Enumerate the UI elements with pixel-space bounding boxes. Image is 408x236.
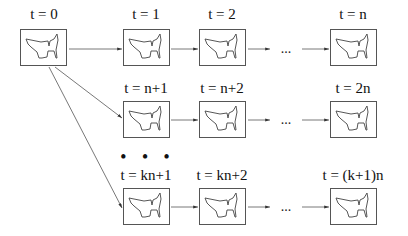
frame-label-tk1n: t = (k+1)n <box>322 167 383 183</box>
frame-sequence-diagram: t = 0 t = 1 t = 2 ... t = n t = n+1 t = … <box>0 0 408 236</box>
cat-silhouette-icon <box>124 30 171 67</box>
frame-tkn2 <box>199 188 246 225</box>
cat-silhouette-icon <box>331 189 378 226</box>
frame-label-tkn2: t = kn+2 <box>196 167 247 183</box>
frame-label-tn: t = n <box>339 6 367 22</box>
row2-ellipsis: ... <box>281 113 292 127</box>
frame-tn <box>330 29 377 66</box>
frame-label-t2n: t = 2n <box>335 80 370 96</box>
frame-label-tn1: t = n+1 <box>124 80 168 96</box>
cat-silhouette-icon <box>124 189 171 226</box>
frame-label-t1: t = 1 <box>132 6 160 22</box>
frame-label-t0: t = 0 <box>30 6 58 22</box>
frame-t2n <box>330 101 377 138</box>
frame-label-tkn1: t = kn+1 <box>120 167 171 183</box>
row1-ellipsis: ... <box>281 42 292 56</box>
vertical-ellipsis: • • • <box>121 152 176 162</box>
cat-silhouette-icon <box>21 30 68 67</box>
frame-tn1 <box>123 101 170 138</box>
cat-silhouette-icon <box>331 30 378 67</box>
frame-tk1n <box>330 188 377 225</box>
frame-tn2 <box>199 101 246 138</box>
cat-silhouette-icon <box>200 30 247 67</box>
cat-silhouette-icon <box>200 189 247 226</box>
cat-silhouette-icon <box>331 102 378 139</box>
frame-tkn1 <box>123 188 170 225</box>
frame-label-t2: t = 2 <box>208 6 236 22</box>
row3-ellipsis: ... <box>281 200 292 214</box>
frame-t2 <box>199 29 246 66</box>
frame-t1 <box>123 29 170 66</box>
cat-silhouette-icon <box>124 102 171 139</box>
cat-silhouette-icon <box>200 102 247 139</box>
frame-label-tn2: t = n+2 <box>200 80 244 96</box>
frame-t0 <box>20 29 67 66</box>
